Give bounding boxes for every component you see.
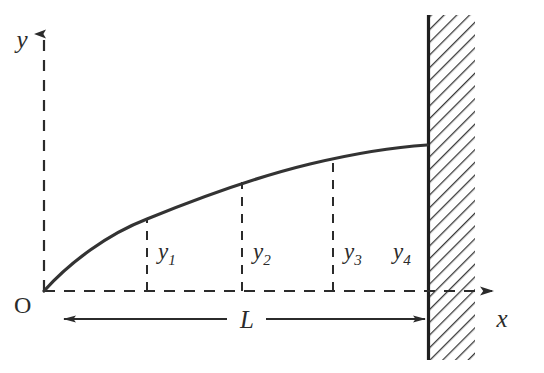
ordinate-label-y1-sub: 1 — [168, 251, 176, 268]
ordinate-label-y4-base: y — [391, 239, 404, 264]
svg-text:y2: y2 — [251, 239, 271, 268]
origin-label: O — [14, 292, 31, 318]
svg-text:y4: y4 — [391, 239, 411, 268]
ordinate-label-y1-base: y — [156, 239, 169, 264]
ordinate-label-y3-base: y — [342, 239, 355, 264]
deflection-curve — [44, 145, 427, 291]
svg-text:y3: y3 — [342, 239, 362, 268]
ordinate-label-y4-sub: 4 — [403, 251, 411, 268]
ordinate-label-y3-sub: 3 — [353, 251, 362, 268]
svg-text:y1: y1 — [156, 239, 176, 268]
ordinate-label-y2-sub: 2 — [263, 251, 271, 268]
ordinate-label-y2-base: y — [251, 239, 264, 264]
y-axis-label: y — [13, 26, 28, 53]
ordinate-label-y4: y4 — [391, 239, 411, 268]
ordinate-label-y3: y3 — [342, 239, 362, 268]
ordinate-label-y1: y1 — [156, 239, 176, 268]
fixed-support-wall — [427, 15, 475, 360]
beam-deflection-figure: y x O L y1 y2 y3 y4 — [0, 0, 544, 373]
dimension-label-L: L — [239, 306, 254, 333]
x-axis-label: x — [495, 305, 507, 332]
ordinate-lines — [147, 160, 333, 291]
ordinate-label-y2: y2 — [251, 239, 271, 268]
